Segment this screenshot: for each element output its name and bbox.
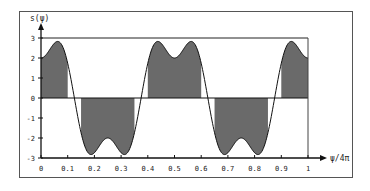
y-axis-label: s(ψ) <box>30 14 49 23</box>
y-tick-label: 3 <box>31 35 35 43</box>
y-axis-arrow-icon <box>38 23 44 30</box>
y-tick-label: 1 <box>31 75 35 83</box>
x-tick-label: 1 <box>306 165 310 173</box>
shaded-region-3 <box>148 41 201 98</box>
x-axis-label: ψ/4π <box>330 154 349 163</box>
x-tick-label: 0.1 <box>61 165 74 173</box>
x-tick-label: 0.5 <box>168 165 181 173</box>
y-tick-label: 0 <box>31 95 35 103</box>
x-tick-label: 0.2 <box>88 165 101 173</box>
chart-svg: 00.10.20.30.40.50.60.70.80.91 -3-2-10123… <box>0 0 370 191</box>
shaded-region-2 <box>81 98 134 155</box>
x-tick-label: 0.9 <box>275 165 288 173</box>
x-tick-label: 0.4 <box>141 165 154 173</box>
x-tick-label: 0.7 <box>222 165 235 173</box>
shaded-region-4 <box>215 98 268 155</box>
y-tick-label: -2 <box>27 135 35 143</box>
y-tick-label: 2 <box>31 55 35 63</box>
x-tick-label: 0.8 <box>248 165 261 173</box>
x-tick-label: 0.6 <box>195 165 208 173</box>
x-axis-arrow-icon <box>320 155 327 161</box>
y-tick-label: -3 <box>27 155 35 163</box>
x-tick-label: 0 <box>39 165 43 173</box>
x-tick-label: 0.3 <box>115 165 128 173</box>
y-tick-label: -1 <box>27 115 35 123</box>
